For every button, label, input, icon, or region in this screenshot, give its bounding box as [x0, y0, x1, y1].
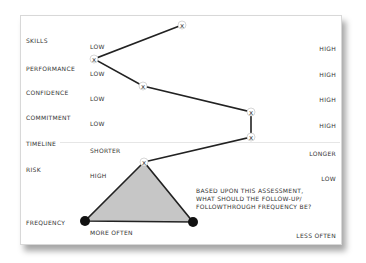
svg-text:x: x	[249, 109, 253, 117]
risk-high: HIGH	[90, 172, 107, 179]
svg-text:x: x	[92, 56, 96, 64]
row-label-frequency: FREQUENCY	[26, 219, 65, 226]
marker-skills: x	[178, 21, 186, 30]
frequency-more-often-dot	[80, 216, 90, 226]
row-label-commitment: COMMITMENT	[26, 114, 71, 121]
marker-timeline: x	[247, 133, 255, 142]
svg-text:x: x	[249, 134, 253, 142]
assessment-question: BASED UPON THIS ASSESSMENT, WHAT SHOULD …	[196, 187, 311, 211]
marker-performance: x	[90, 55, 98, 64]
svg-text:x: x	[142, 159, 146, 167]
row-label-performance: PERFORMANCE	[26, 65, 75, 72]
risk-low: LOW	[321, 175, 336, 182]
skills-high: HIGH	[319, 45, 336, 52]
svg-text:x: x	[141, 83, 145, 91]
marker-commitment: x	[247, 108, 255, 117]
row-label-risk: RISK	[26, 166, 41, 173]
assessment-line	[94, 25, 251, 162]
frequency-less-often: LESS OFTEN	[296, 232, 336, 239]
frequency-less-often-dot	[188, 217, 198, 227]
row-label-skills: SKILLS	[26, 37, 48, 44]
commitment-low: LOW	[90, 120, 105, 127]
skills-low: LOW	[90, 43, 105, 50]
frequency-more-often: MORE OFTEN	[90, 229, 133, 236]
commitment-high: HIGH	[319, 122, 336, 129]
performance-low: LOW	[90, 70, 105, 77]
frequency-triangle	[85, 162, 193, 222]
performance-high: HIGH	[319, 71, 336, 78]
marker-confidence: x	[139, 82, 147, 91]
row-label-timeline: TIMELINE	[26, 140, 56, 147]
confidence-high: HIGH	[319, 96, 336, 103]
confidence-low: LOW	[90, 95, 105, 102]
row-label-confidence: CONFIDENCE	[26, 89, 69, 96]
timeline-longer: LONGER	[309, 150, 336, 157]
marker-risk: x	[140, 158, 148, 167]
svg-text:x: x	[180, 22, 184, 30]
timeline-shorter: SHORTER	[90, 147, 121, 154]
